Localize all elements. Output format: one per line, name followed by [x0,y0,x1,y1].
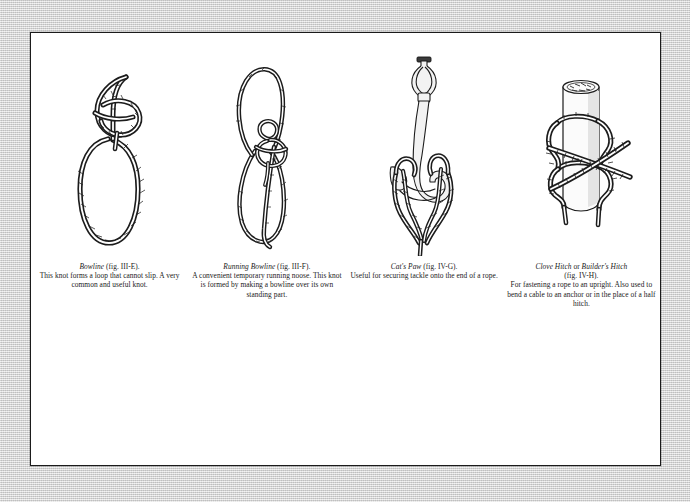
figure-clove-hitch: Clove Hitch or Builder's Hitch (fig. IV-… [505,51,657,308]
caption-fig-ref: (fig. III-E). [104,262,140,271]
cats-paw-knot-illustration [369,51,479,256]
caption-fig-ref: (fig. IV-H). [564,271,598,280]
caption-description: Useful for securing tackle onto the end … [350,271,497,280]
caption-running-bowline: Running Bowline (fig. III-F). A convenie… [191,262,343,299]
knot-illustration-plate: Bowline (fig. III-E). This knot forms a … [31,33,660,323]
clove-hitch-knot-illustration [522,51,640,256]
caption-fig-ref: (fig. IV-G). [421,262,457,271]
bowline-knot-illustration [55,51,165,256]
caption-bowline: Bowline (fig. III-E). This knot forms a … [34,262,186,290]
caption-title: Bowline [80,262,105,271]
caption-description: A convenient temporary running noose. Th… [192,271,341,298]
caption-title: Running Bowline [223,262,275,271]
caption-cats-paw: Cat's Paw (fig. IV-G). Useful for securi… [348,262,500,280]
figure-bowline: Bowline (fig. III-E). This knot forms a … [34,51,186,290]
caption-fig-ref: (fig. III-F). [275,262,310,271]
figure-cats-paw: Cat's Paw (fig. IV-G). Useful for securi… [348,51,500,280]
caption-title: Cat's Paw [391,262,422,271]
caption-title: Clove Hitch [535,262,571,271]
figure-running-bowline: Running Bowline (fig. III-F). A convenie… [191,51,343,299]
caption-description: This knot forms a loop that cannot slip.… [40,271,180,289]
caption-clove-hitch: Clove Hitch or Builder's Hitch (fig. IV-… [505,262,657,308]
caption-title-conjunction: or [572,262,582,271]
scanned-book-page: Bowline (fig. III-E). This knot forms a … [30,32,661,466]
caption-description: For fastening a rope to an upright. Also… [507,280,655,307]
caption-title-alt: Builder's Hitch [582,262,628,271]
running-bowline-knot-illustration [212,51,322,256]
